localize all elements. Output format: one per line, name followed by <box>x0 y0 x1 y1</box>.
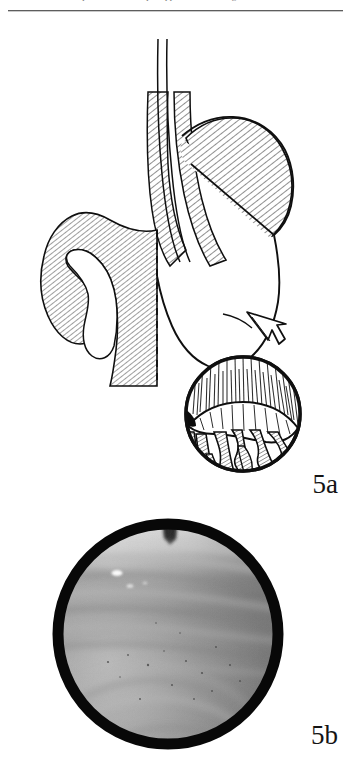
pointer-arrow-icon <box>223 312 286 344</box>
running-header: Chapter 5 · Endoscopic appearance of the… <box>0 0 351 14</box>
figure-5b: 5b <box>0 505 351 767</box>
endoscopic-inset <box>186 357 300 472</box>
figure-5b-label: 5b <box>311 720 338 751</box>
endoscopic-photograph <box>44 513 292 755</box>
photo-field <box>44 513 292 755</box>
running-header-text: Chapter 5 · Endoscopic appearance of the… <box>0 0 351 1</box>
stomach-diagram <box>0 14 351 484</box>
antrum-pylorus-region <box>41 213 157 386</box>
figure-5a: 5a <box>0 14 351 510</box>
figure-5a-label: 5a <box>313 469 338 500</box>
header-rule <box>8 10 343 11</box>
